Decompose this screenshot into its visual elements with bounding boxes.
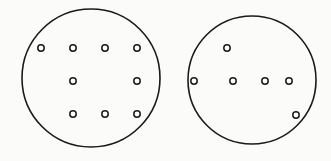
small-circle-dot [224,45,230,51]
small-circle-dot [286,78,292,84]
small-circle-dot [70,111,76,117]
small-circle-dot [191,78,197,84]
small-circle-dot [230,78,236,84]
right-circle [188,16,316,144]
two-circles-dot-diagram [0,0,331,161]
small-circle-dot [102,111,108,117]
small-circle-dot [262,78,268,84]
small-circle-dot [70,45,76,51]
small-circle-dot [134,45,140,51]
small-circle-dot [102,45,108,51]
diagram-canvas [0,0,331,161]
outer-circle-outline [188,16,316,144]
small-circle-dot [134,78,140,84]
left-circle [22,9,160,147]
small-circle-dot [134,111,140,117]
small-circle-dot [70,78,76,84]
small-circle-dot [293,112,299,118]
small-circle-dot [38,45,44,51]
